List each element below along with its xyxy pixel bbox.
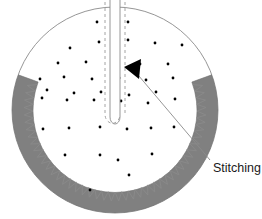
fabric-dot xyxy=(98,41,101,44)
fabric-dot xyxy=(181,44,184,47)
fabric-dot xyxy=(73,92,76,95)
fabric-dot xyxy=(173,126,176,129)
fabric-dot xyxy=(57,62,60,65)
fabric-dot xyxy=(154,42,157,45)
fabric-dot xyxy=(100,91,103,94)
fabric-dot xyxy=(39,78,42,81)
fabric-dot xyxy=(46,89,49,92)
fabric-dot xyxy=(85,61,88,64)
fabric-dot xyxy=(91,78,94,81)
fabric-dot xyxy=(172,77,175,80)
fabric-dot xyxy=(147,102,150,105)
fabric-dot xyxy=(93,99,96,102)
fabric-dot xyxy=(126,128,129,131)
fabric-dot xyxy=(99,154,102,157)
fabric-dot xyxy=(42,128,45,131)
fabric-dot xyxy=(66,99,69,102)
fabric-dot xyxy=(145,79,148,82)
fabric-dot xyxy=(117,159,120,162)
fabric-dot xyxy=(150,127,153,130)
fabric-dot xyxy=(68,127,71,130)
fabric-dot xyxy=(69,47,72,50)
fabric-dot xyxy=(174,98,177,101)
fabric-dot xyxy=(127,39,130,42)
fabric-dot xyxy=(96,21,99,24)
stitching-diagram: Stitching xyxy=(0,0,262,219)
fabric-dot xyxy=(128,94,131,97)
fabric-dot xyxy=(89,189,92,192)
center-slit xyxy=(110,0,120,124)
fabric-dot xyxy=(64,154,67,157)
figure-container: Stitching xyxy=(0,0,262,219)
fabric-dot xyxy=(167,63,170,66)
fabric-dot xyxy=(41,97,44,100)
fabric-dot xyxy=(155,91,158,94)
fabric-dot xyxy=(128,174,131,177)
fabric-dot xyxy=(127,21,130,24)
callout-label: Stitching xyxy=(213,161,261,175)
fabric-dot xyxy=(63,76,66,79)
fabric-dot xyxy=(151,153,154,156)
fabric-dot xyxy=(99,126,102,129)
